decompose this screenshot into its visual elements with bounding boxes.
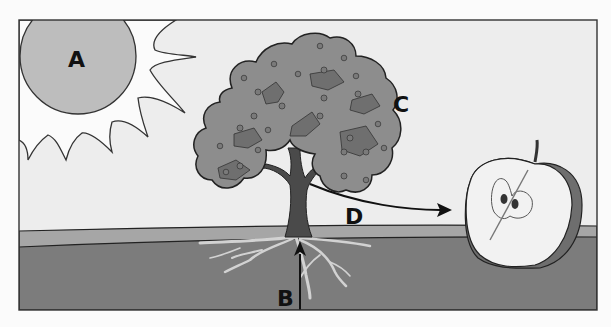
label-b: B <box>277 286 294 311</box>
label-d: D <box>345 204 363 229</box>
label-a: A <box>68 47 85 72</box>
diagram-canvas: A C D B <box>0 0 611 327</box>
label-c: C <box>393 92 409 117</box>
apple-flesh <box>466 158 572 266</box>
apple-seed <box>512 199 519 209</box>
apple-seed <box>501 194 508 204</box>
